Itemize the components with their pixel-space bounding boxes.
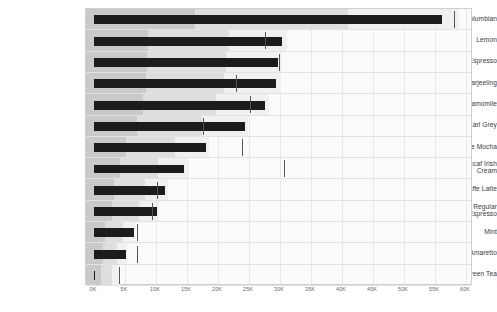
measure-bar xyxy=(94,186,165,195)
x-tick-label: 30K xyxy=(274,286,284,292)
bullet-row xyxy=(86,243,471,264)
measure-bar xyxy=(94,15,442,24)
x-tick-label: 60K xyxy=(460,286,470,292)
bullet-row xyxy=(86,9,471,30)
measure-bar xyxy=(94,250,126,259)
measure-bar xyxy=(94,101,265,110)
x-tick-label: 10K xyxy=(150,286,160,292)
bullet-row xyxy=(86,94,471,115)
measure-bar xyxy=(94,271,95,280)
target-marker xyxy=(157,182,158,199)
measure-bar xyxy=(94,143,206,152)
x-tick-label: 45K xyxy=(367,286,377,292)
measure-bar xyxy=(94,228,134,237)
bullet-row xyxy=(86,222,471,243)
target-marker xyxy=(236,75,237,92)
category-label-line1: Lemon xyxy=(476,36,497,43)
x-tick-label: 25K xyxy=(243,286,253,292)
x-tick-label: 5K xyxy=(121,286,128,292)
category-label-line1: Regular xyxy=(473,203,497,210)
x-tick-label: 20K xyxy=(212,286,222,292)
measure-bar xyxy=(94,207,157,216)
target-marker xyxy=(137,246,138,263)
measure-bar xyxy=(94,122,245,131)
bullet-row xyxy=(86,158,471,179)
bullet-row xyxy=(86,265,471,286)
bullet-row xyxy=(86,201,471,222)
bullet-row xyxy=(86,116,471,137)
x-tick-label: 55K xyxy=(429,286,439,292)
x-tick-label: 0K xyxy=(90,286,97,292)
x-tick-label: 15K xyxy=(181,286,191,292)
target-marker xyxy=(454,11,455,28)
category-label-line1: Earl Grey xyxy=(468,121,497,128)
category-label-line1: Mint xyxy=(484,228,497,235)
target-marker xyxy=(250,96,251,113)
x-axis: 0K5K10K15K20K25K30K35K40K45K50K55K60K xyxy=(85,286,472,300)
measure-bar xyxy=(94,165,184,174)
bullet-row xyxy=(86,52,471,73)
x-tick-label: 50K xyxy=(398,286,408,292)
x-tick-label: 35K xyxy=(305,286,315,292)
bullet-row xyxy=(86,30,471,51)
bullet-row xyxy=(86,137,471,158)
target-marker xyxy=(152,203,153,220)
target-marker xyxy=(279,54,280,71)
measure-bar xyxy=(94,58,278,67)
target-marker xyxy=(265,32,266,49)
bullet-row xyxy=(86,73,471,94)
target-marker xyxy=(284,160,285,177)
target-marker xyxy=(242,139,243,156)
measure-bar xyxy=(94,79,276,88)
category-label-line1: Amaretto xyxy=(469,249,497,256)
x-tick-label: 40K xyxy=(336,286,346,292)
plot-area xyxy=(85,8,472,285)
target-marker xyxy=(137,224,138,241)
bullet-chart: ColumbianLemonDecaf EspressoDarjeelingCh… xyxy=(0,0,497,312)
bullet-row xyxy=(86,179,471,200)
target-marker xyxy=(203,118,204,135)
target-marker xyxy=(119,267,120,284)
measure-bar xyxy=(94,37,282,46)
